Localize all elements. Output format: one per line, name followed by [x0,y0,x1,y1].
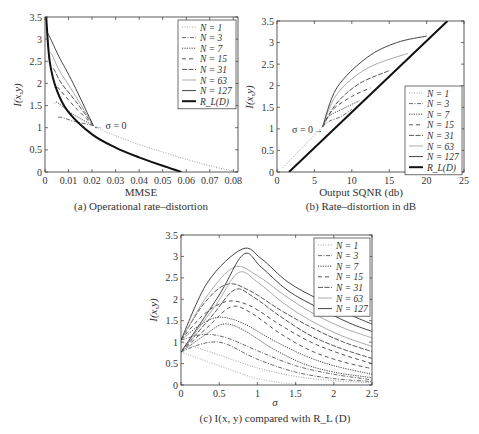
y-tick-label: 1 [173,337,178,348]
chart-panel-c: 00.511.522.5 00.511.522.533.5 N = 1N = 3… [147,230,378,426]
y-axis-label-a: I(x,y) [11,83,24,108]
annotation-sigma-zero-a: ← σ = 0 [93,120,127,131]
x-tick-label: 0.01 [60,175,78,186]
legend-label: N = 7 [426,110,450,120]
x-tick-label: 15 [384,175,394,186]
legend-c: N = 1N = 3N = 7N = 15N = 31N = 63N = 127 [314,238,370,316]
y-tick-label: 3.5 [166,230,179,241]
legend-label: N = 1 [335,241,358,251]
x-tick-label: 0.05 [154,175,172,186]
legend-label: N = 3 [426,99,449,109]
y-tick-label: 3 [269,37,274,48]
x-tick-label: 0 [179,388,184,399]
legend-label: N = 15 [426,120,454,130]
x-axis-label-c: σ [272,396,278,408]
x-tick-label: 0 [275,175,280,186]
legend-label: N = 31 [199,65,227,75]
y-tick-label: 3.5 [30,12,43,23]
y-tick-label: 0 [37,167,42,178]
x-tick-label: 0.07 [201,175,219,186]
caption-a: (a) Operational rate–distortion [74,200,208,213]
y-tick-label: 1.5 [262,102,275,113]
y-tick-label: 0 [173,380,178,391]
x-tick-label: 2.5 [366,388,379,399]
y-tick-label: 0.5 [262,145,275,156]
y-tick-label: 1.5 [166,315,179,326]
legend-label: R_L(D) [426,163,456,174]
y-tick-label: 2.5 [30,56,43,67]
caption-b: (b) Rate–distortion in dB [306,200,416,213]
legend-label: N = 3 [199,33,222,43]
legend-label: N = 1 [199,23,222,33]
y-axis-label-c: I(x,y) [147,298,160,323]
y-tick-label: 2 [37,78,42,89]
chart-panel-a: 00.010.020.030.040.050.060.070.08 00.511… [11,12,242,214]
series-line [46,17,181,172]
x-tick-label: 20 [422,175,432,186]
x-tick-label: 1 [255,388,260,399]
legend-label: N = 63 [199,76,227,86]
x-tick-label: 10 [347,175,357,186]
legend-label: N = 127 [199,86,233,96]
x-tick-label: 0 [43,175,48,186]
series-line [181,324,372,378]
y-tick-label: 2.5 [166,272,179,283]
x-tick-label: 25 [459,175,469,186]
y-tick-label: 0.5 [166,358,179,369]
y-tick-label: 3 [37,34,42,45]
series-line [323,71,390,127]
y-tick-label: 3.5 [262,16,275,27]
legend-label: N = 7 [335,262,359,272]
x-tick-label: 2 [331,388,336,399]
x-axis-label-b: Output SQNR (db) [319,186,403,199]
legend-label: N = 127 [426,152,460,162]
y-tick-label: 2 [173,294,178,305]
x-tick-label: 0.5 [213,388,226,399]
legend-label: N = 63 [426,142,454,152]
chart-panel-b: 0510152025 00.511.522.533.5 N = 1N = 3N … [243,16,469,214]
caption-c: (c) I(x, y) compared with R_L (D) [200,412,351,425]
y-tick-label: 1.5 [30,100,43,111]
legend-label: R_L(D) [199,97,229,108]
legend-label: N = 15 [335,272,363,282]
legend-label: N = 127 [335,304,369,314]
legend-b: N = 1N = 3N = 7N = 15N = 31N = 63N = 127… [405,86,462,175]
x-tick-label: 0.04 [130,175,148,186]
legend-label: N = 63 [335,294,363,304]
annotation-sigma-zero-b: σ = 0→ [292,124,323,135]
y-tick-label: 0 [269,167,274,178]
legend-label: N = 31 [335,283,363,293]
x-axis-label-a: MMSE [125,186,158,198]
x-tick-label: 5 [312,175,317,186]
y-tick-label: 1 [37,122,42,133]
x-tick-label: 0.03 [107,175,125,186]
legend-label: N = 1 [426,89,449,99]
series-line [93,126,238,173]
legend-a: N = 1N = 3N = 7N = 15N = 31N = 63N = 127… [178,20,236,109]
legend-label: N = 3 [335,251,358,261]
y-tick-label: 1 [269,123,274,134]
x-tick-label: 0.06 [177,175,195,186]
y-tick-label: 3 [173,251,178,262]
legend-label: N = 31 [426,131,454,141]
y-tick-label: 2.5 [262,59,275,70]
legend-label: N = 7 [199,44,223,54]
x-tick-label: 1.5 [289,388,302,399]
y-tick-label: 2 [269,80,274,91]
x-tick-label: 0.02 [83,175,101,186]
figure: 00.010.020.030.040.050.060.070.08 00.511… [0,0,479,434]
legend-label: N = 15 [199,54,227,64]
x-tick-label: 0.08 [225,175,243,186]
y-axis-label-b: I(x,y) [243,85,256,110]
y-tick-label: 0.5 [30,144,43,155]
